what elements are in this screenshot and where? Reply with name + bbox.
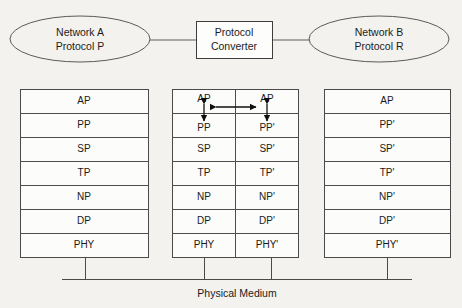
right-layer-1: PP' [379, 119, 394, 130]
middle-left-layer-1: PP [197, 122, 211, 133]
middle-right-layer-4: NP' [259, 191, 275, 202]
middle-left-layer-4: NP [197, 191, 211, 202]
left-layer-0: AP [77, 95, 91, 106]
middle-left-layer-2: SP [197, 143, 211, 154]
middle-left-layer-5: DP [197, 215, 211, 226]
stack-middle: AP PP SP TP NP DP PHY AP PP' SP' TP' NP'… [173, 90, 299, 258]
top-row-group: Network A Protocol P Protocol Converter … [10, 16, 449, 62]
left-layer-6: PHY [74, 239, 95, 250]
protocol-converter-line2: Converter [211, 40, 258, 52]
middle-left-layer-6: PHY [194, 239, 215, 250]
stack-right: AP PP' SP' TP' NP' DP' PHY' [325, 90, 451, 258]
middle-left-layer-3: TP [198, 167, 211, 178]
middle-right-layer-6: PHY' [256, 239, 279, 250]
left-layer-3: TP [78, 167, 91, 178]
physical-medium-group: Physical Medium [62, 258, 412, 299]
middle-right-layer-2: SP' [259, 143, 274, 154]
network-b-line1: Network B [355, 26, 403, 38]
node-protocol-converter[interactable]: Protocol Converter [197, 22, 273, 59]
middle-right-layer-5: DP' [259, 215, 275, 226]
left-layer-4: NP [77, 191, 91, 202]
right-layer-0: AP [380, 95, 394, 106]
network-b-line2: Protocol R [354, 40, 403, 52]
left-layer-2: SP [77, 143, 91, 154]
right-layer-5: DP' [379, 215, 395, 226]
left-layer-1: PP [77, 119, 91, 130]
network-a-line2: Protocol P [56, 40, 104, 52]
diagram-canvas: Network A Protocol P Protocol Converter … [0, 0, 462, 308]
right-layer-6: PHY' [376, 239, 399, 250]
right-layer-3: TP' [380, 167, 395, 178]
diagram-root: Network A Protocol P Protocol Converter … [0, 0, 462, 308]
physical-medium-label: Physical Medium [197, 287, 277, 299]
network-a-line1: Network A [56, 26, 104, 38]
middle-right-layer-3: TP' [260, 167, 275, 178]
left-layer-5: DP [77, 215, 91, 226]
stack-left: AP PP SP TP NP DP PHY [21, 90, 149, 258]
right-layer-4: NP' [379, 191, 395, 202]
right-layer-2: SP' [379, 143, 394, 154]
middle-right-layer-0: AP [260, 93, 274, 104]
node-network-a[interactable]: Network A Protocol P [10, 16, 150, 62]
node-network-b[interactable]: Network B Protocol R [309, 16, 449, 62]
middle-right-layer-1: PP' [259, 122, 274, 133]
middle-left-layer-0: AP [197, 93, 211, 104]
protocol-converter-line1: Protocol [215, 26, 254, 38]
